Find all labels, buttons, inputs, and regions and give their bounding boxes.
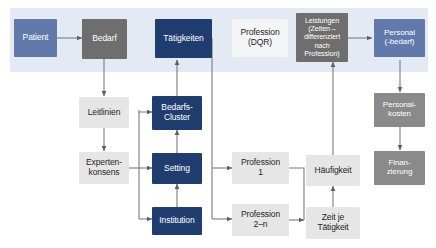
- node-leistungen[interactable]: Leistungen (Zeiten – differenziert nach …: [296, 13, 348, 62]
- node-expertenkonsens-line2: konsens: [81, 168, 127, 178]
- diagram-canvas: Patient Bedarf Tätigkeiten Profession (D…: [0, 0, 436, 248]
- node-personalkosten[interactable]: Personal- kosten: [374, 93, 425, 127]
- node-bedarf-label: Bedarf: [84, 34, 125, 44]
- node-bedarfs-cluster-line2: Cluster: [154, 113, 200, 123]
- node-profession-1[interactable]: Profession 1: [232, 152, 289, 184]
- node-expertenkonsens[interactable]: Experten- konsens: [79, 152, 129, 184]
- node-personal[interactable]: Personal (-bedarf): [374, 19, 425, 57]
- node-finanzierung[interactable]: Finan- zierung: [374, 151, 425, 185]
- node-bedarfs-cluster[interactable]: Bedarfs- Cluster: [152, 96, 202, 130]
- node-profession-1-line2: 1: [234, 168, 287, 178]
- node-leistungen-line4: nach Profession): [298, 42, 346, 58]
- node-personalkosten-line2: kosten: [376, 110, 423, 119]
- connector-layer: [0, 0, 436, 248]
- node-institution[interactable]: Institution: [152, 207, 202, 235]
- node-profession-dqr[interactable]: Profession (DQR): [232, 19, 288, 57]
- node-profession-dqr-line2: (DQR): [234, 38, 286, 48]
- node-setting[interactable]: Setting: [152, 153, 202, 184]
- node-haeufigkeit-label: Häufigkeit: [308, 166, 358, 176]
- node-finanzierung-line2: zierung: [376, 168, 423, 177]
- node-taetigkeiten[interactable]: Tätigkeiten: [155, 19, 212, 58]
- node-taetigkeiten-label: Tätigkeiten: [157, 34, 210, 44]
- node-profession-2n[interactable]: Profession 2–n: [232, 204, 289, 236]
- node-personal-line2: (-bedarf): [376, 38, 423, 47]
- node-profession-2n-line2: 2–n: [234, 220, 287, 230]
- node-leitlinien-label: Leitlinien: [81, 108, 127, 118]
- node-haeufigkeit[interactable]: Häufigkeit: [306, 155, 360, 186]
- node-setting-label: Setting: [154, 164, 200, 174]
- node-patient[interactable]: Patient: [14, 19, 57, 57]
- node-institution-label: Institution: [154, 216, 200, 226]
- node-bedarf[interactable]: Bedarf: [82, 19, 127, 59]
- node-zeit-je-taetigkeit[interactable]: Zeit je Tätigkeit: [306, 207, 360, 239]
- node-zeit-je-taetigkeit-line2: Tätigkeit: [308, 223, 358, 233]
- node-leitlinien[interactable]: Leitlinien: [79, 97, 129, 128]
- node-patient-label: Patient: [16, 33, 55, 43]
